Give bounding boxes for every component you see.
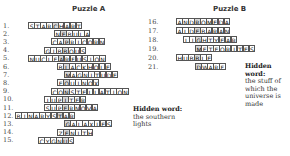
- row-number: 1.: [3, 22, 9, 30]
- row-number: 5.: [3, 54, 9, 62]
- row-number: 12.: [3, 112, 13, 120]
- letter-cell[interactable]: F: [219, 63, 226, 70]
- letter-cell[interactable]: A: [84, 30, 91, 37]
- row-number: 19.: [148, 45, 158, 53]
- letter-cell[interactable]: S: [80, 47, 87, 54]
- letter-cell[interactable]: E: [206, 54, 213, 61]
- letter-cell[interactable]: S: [68, 137, 75, 144]
- word-row: SUPERNOVA: [45, 104, 98, 111]
- letter-cell[interactable]: X: [93, 79, 100, 86]
- word-row: MAGNITUDE: [65, 71, 118, 78]
- letter-cell[interactable]: A: [224, 18, 231, 25]
- letter-cell[interactable]: T: [76, 22, 83, 29]
- letter-cell[interactable]: R: [69, 112, 76, 119]
- letter-cell[interactable]: N: [122, 88, 129, 95]
- puzzle-b-hidden-word-hint: Hidden word: the stuff of which the univ…: [245, 63, 290, 109]
- row-number: 8.: [3, 79, 9, 87]
- letter-cell[interactable]: R: [231, 36, 238, 43]
- word-row: HUBBLE: [177, 54, 212, 61]
- letter-cell[interactable]: N: [99, 38, 106, 45]
- row-number: 7.: [3, 71, 9, 79]
- word-row: JUPITER: [45, 96, 86, 103]
- letter-cell[interactable]: R: [80, 96, 87, 103]
- row-number: 11.: [3, 104, 13, 112]
- letter-cell[interactable]: H: [87, 129, 94, 136]
- puzzle-a-title: Puzzle A: [72, 5, 105, 13]
- hidden-word-label: Hidden word:: [245, 62, 272, 78]
- row-number: 15.: [3, 136, 13, 144]
- word-row: CAPRICORN: [52, 38, 105, 45]
- word-row: BINARYSTAR: [16, 112, 75, 119]
- row-number: 6.: [3, 63, 9, 71]
- row-number: 9.: [3, 87, 9, 95]
- letter-cell[interactable]: S: [249, 45, 256, 52]
- hidden-word-clue-line: lights: [133, 120, 151, 128]
- word-row: GALAXIES: [65, 120, 112, 127]
- word-row: CONSTELLATION: [52, 88, 129, 95]
- letter-cell[interactable]: A: [92, 104, 99, 111]
- word-row: CYGNUS: [39, 137, 74, 144]
- letter-cell[interactable]: N: [224, 27, 231, 34]
- row-number: 10.: [3, 95, 13, 103]
- row-number: 2.: [3, 30, 9, 38]
- word-row: LIGHTYEAR: [184, 36, 237, 43]
- row-number: 16.: [148, 18, 158, 26]
- word-row: BLACKHOLE: [58, 63, 111, 70]
- word-row: NUCLEARFUSION: [29, 55, 106, 62]
- letter-cell[interactable]: E: [112, 71, 119, 78]
- puzzle-b-title: Puzzle B: [213, 5, 246, 13]
- letter-cell[interactable]: S: [106, 120, 113, 127]
- letter-cell[interactable]: E: [105, 63, 112, 70]
- row-number: 18.: [148, 36, 158, 44]
- letter-cell[interactable]: N: [99, 55, 106, 62]
- word-row: ANDROMEDA: [177, 18, 230, 25]
- row-number: 13.: [3, 120, 13, 128]
- puzzle-a-hidden-word-hint: Hidden word: the southern lights: [133, 106, 182, 129]
- word-row: STARCHART: [29, 22, 82, 29]
- row-number: 4.: [3, 46, 9, 54]
- word-row: METEORITES: [196, 45, 255, 52]
- word-row: DWARF: [196, 63, 226, 70]
- row-number: 3.: [3, 38, 9, 46]
- word-row: ALDEBARAN: [177, 27, 230, 34]
- word-row: GIBBOUS: [45, 47, 86, 54]
- word-row: ZENITH: [58, 129, 93, 136]
- word-row: EQUINOX: [58, 79, 99, 86]
- hidden-word-clue-line: made: [245, 100, 263, 108]
- row-number: 20.: [148, 54, 158, 62]
- row-number: 14.: [3, 128, 13, 136]
- word-row: NEBULA: [55, 30, 90, 37]
- row-number: 17.: [148, 27, 158, 35]
- row-number: 21.: [148, 63, 158, 71]
